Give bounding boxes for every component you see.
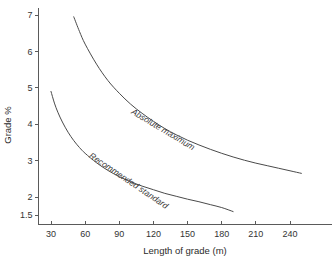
curve-absolute-maximum	[74, 17, 302, 174]
axes-group	[39, 8, 333, 225]
y-axis-ticks: 1.5234567	[20, 10, 39, 220]
y-tick-label: 1.5	[20, 210, 33, 220]
x-tick-label: 180	[214, 229, 229, 239]
y-tick-label: 7	[27, 10, 32, 20]
y-tick-label: 3	[27, 156, 32, 166]
y-axis-title: Grade %	[2, 106, 13, 144]
series-labels: Absolute maximum Recommended standard	[87, 106, 196, 211]
chart-canvas: 1.5234567 306090120150180210240 Absolute…	[0, 0, 334, 261]
series-label-recommended-standard: Recommended standard	[87, 150, 170, 210]
y-tick-label: 4	[27, 119, 32, 129]
x-axis-title: Length of grade (m)	[143, 245, 226, 256]
series-curves	[51, 17, 301, 212]
y-tick-label: 5	[27, 83, 32, 93]
series-label-absolute-maximum: Absolute maximum	[129, 106, 197, 152]
chart-figure: 1.5234567 306090120150180210240 Absolute…	[0, 0, 334, 261]
x-tick-label: 210	[248, 229, 263, 239]
x-axis-ticks: 306090120150180210240	[46, 221, 298, 239]
x-tick-label: 30	[46, 229, 56, 239]
x-tick-label: 150	[180, 229, 195, 239]
x-tick-label: 60	[80, 229, 90, 239]
x-tick-label: 90	[114, 229, 124, 239]
x-tick-label: 240	[282, 229, 297, 239]
y-tick-label: 2	[27, 192, 32, 202]
x-tick-label: 120	[146, 229, 161, 239]
y-tick-label: 6	[27, 47, 32, 57]
